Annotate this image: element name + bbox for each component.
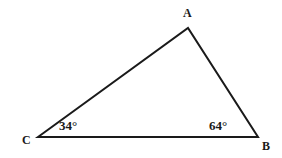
vertex-label-b: B — [262, 140, 270, 152]
triangle-diagram: A B C 34° 64° — [0, 0, 282, 158]
angle-label-b: 64° — [209, 119, 227, 132]
vertex-label-a: A — [183, 7, 192, 19]
angle-label-c: 34° — [59, 119, 77, 132]
triangle-shape — [0, 0, 282, 158]
vertex-label-c: C — [22, 134, 31, 146]
